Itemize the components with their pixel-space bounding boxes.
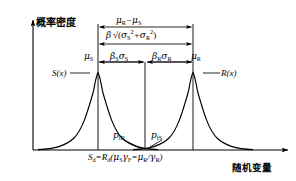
x-axis-label: 随机变量 — [232, 163, 272, 173]
label-mu-r: μR — [191, 52, 201, 61]
dimension-label-beta-r-sigma-r: βRσR — [152, 52, 172, 61]
label-curve-r: R(x) — [221, 69, 237, 78]
dimension-label-beta-s-sigma-s: βSσS — [110, 52, 128, 61]
label-design-point: Sd=Rd(μSγF=μR/γR) — [88, 153, 163, 162]
label-failure-probability-r: pfR — [113, 131, 125, 140]
dimension-label-mean-difference: μR−μS — [116, 16, 141, 25]
y-axis-label: 概率密度 — [36, 18, 76, 28]
dimension-label-beta-sigma: β √(σS2+σR2) — [106, 31, 156, 40]
label-failure-probability-s: pfS — [151, 131, 162, 140]
leader-p-f-r — [124, 140, 140, 148]
label-curve-s: S(x) — [52, 69, 67, 78]
label-mu-s: μS — [84, 52, 93, 61]
figure-canvas: 概率密度 随机变量 μR−μS β √(σS2+σR2) βSσS βRσR μ… — [0, 0, 296, 181]
